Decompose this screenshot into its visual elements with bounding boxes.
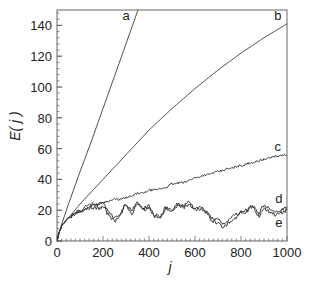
series-c-line xyxy=(57,154,287,241)
series-group xyxy=(57,10,287,241)
y-axis-title: E( j ) xyxy=(7,111,23,141)
y-tick-label: 60 xyxy=(38,142,52,157)
y-tick-label: 0 xyxy=(45,234,52,249)
x-tick-label: 200 xyxy=(92,245,114,260)
curve-label-e: e xyxy=(275,215,282,230)
x-axis-ticks: 02004006008001000 xyxy=(53,245,301,260)
x-tick-label: 600 xyxy=(184,245,206,260)
y-tick-label: 40 xyxy=(38,172,52,187)
y-tick-label: 80 xyxy=(38,111,52,126)
y-tick-label: 100 xyxy=(30,80,52,95)
y-tick-label: 140 xyxy=(30,18,52,33)
y-axis-ticks: 020406080100120140 xyxy=(30,18,52,249)
x-tick-label: 0 xyxy=(53,245,60,260)
curve-label-d: d xyxy=(275,191,282,206)
x-tick-label: 1000 xyxy=(273,245,302,260)
line-chart: abcde 02004006008001000 0204060801001201… xyxy=(0,0,312,285)
x-axis-title: j xyxy=(166,259,172,275)
curve-label-c: c xyxy=(275,139,282,154)
y-tick-label: 120 xyxy=(30,49,52,64)
curve-label-a: a xyxy=(122,8,130,23)
x-tick-label: 400 xyxy=(138,245,160,260)
x-tick-label: 800 xyxy=(230,245,252,260)
curve-label-b: b xyxy=(274,8,281,23)
y-tick-label: 20 xyxy=(38,203,52,218)
series-e-line xyxy=(57,204,287,241)
